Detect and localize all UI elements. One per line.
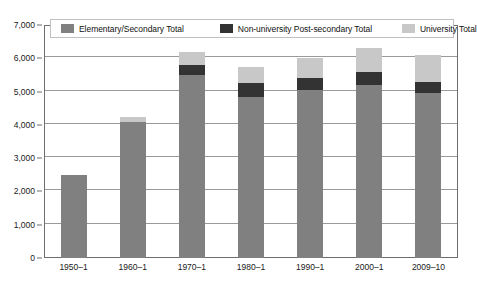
gridline xyxy=(45,156,457,157)
y-axis-tick-label: 7,000 xyxy=(0,20,35,30)
gridline xyxy=(45,56,457,57)
y-axis: 01,0002,0003,0004,0005,0006,0007,000 xyxy=(0,25,42,258)
y-axis-tick-mark xyxy=(37,224,42,225)
y-axis-tick-label: 6,000 xyxy=(0,53,35,63)
y-axis-tick-label: 4,000 xyxy=(0,120,35,130)
legend-swatch-icon xyxy=(220,24,233,33)
y-axis-tick-label: 5,000 xyxy=(0,87,35,97)
gridline xyxy=(45,90,457,91)
legend-swatch-icon xyxy=(61,24,74,33)
x-axis-tick-label: 1950–1 xyxy=(59,262,87,272)
legend-item-elementary-secondary: Elementary/Secondary Total xyxy=(61,24,184,34)
y-axis-tick-label: 1,000 xyxy=(0,220,35,230)
chart-legend: Elementary/Secondary Total Non-universit… xyxy=(50,19,454,38)
gridline xyxy=(45,189,457,190)
gridline xyxy=(45,223,457,224)
x-axis-tick-label: 1970–1 xyxy=(178,262,206,272)
y-axis-tick-mark xyxy=(37,124,42,125)
x-axis-tick-label: 1980–1 xyxy=(237,262,265,272)
plot-area xyxy=(44,25,458,258)
x-axis-tick-label: 1960–1 xyxy=(119,262,147,272)
gridline xyxy=(45,123,457,124)
y-axis-tick-label: 2,000 xyxy=(0,186,35,196)
legend-swatch-icon xyxy=(402,24,415,33)
legend-item-label: Non-university Post-secondary Total xyxy=(238,24,372,34)
legend-item-label: University Total xyxy=(420,24,477,34)
y-axis-tick-mark xyxy=(37,258,42,259)
y-axis-tick-mark xyxy=(37,158,42,159)
x-axis-tick-label: 2009–10 xyxy=(412,262,445,272)
y-axis-tick-mark xyxy=(37,191,42,192)
y-axis-tick-label: 3,000 xyxy=(0,153,35,163)
y-axis-tick-mark xyxy=(37,25,42,26)
x-axis: 1950–11960–11970–11980–11990–12000–12009… xyxy=(44,262,458,282)
y-axis-tick-mark xyxy=(37,58,42,59)
y-axis-tick-mark xyxy=(37,91,42,92)
legend-item-university: University Total xyxy=(402,24,477,34)
y-axis-tick-label: 0 xyxy=(0,253,35,263)
legend-item-non-university: Non-university Post-secondary Total xyxy=(220,24,372,34)
legend-item-label: Elementary/Secondary Total xyxy=(79,24,184,34)
x-axis-tick-label: 2000–1 xyxy=(355,262,383,272)
x-axis-tick-label: 1990–1 xyxy=(296,262,324,272)
